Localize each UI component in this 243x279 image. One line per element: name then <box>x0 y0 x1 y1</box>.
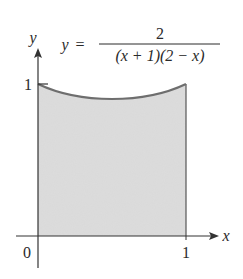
y-axis-label: y <box>27 29 37 47</box>
shaded-area <box>38 84 186 236</box>
equation-lhs: y <box>59 36 69 54</box>
x-tick-label-1: 1 <box>182 244 190 261</box>
equation-numerator: 2 <box>156 25 164 42</box>
area-under-curve-figure: y x 1 0 1 y = 2 (x + 1)(2 − x) <box>0 0 243 279</box>
equation-denominator: (x + 1)(2 − x) <box>115 47 204 65</box>
x-tick-label-0: 0 <box>23 244 31 261</box>
y-tick-label-1: 1 <box>24 76 32 93</box>
equation: y = 2 (x + 1)(2 − x) <box>59 25 220 65</box>
x-axis-label: x <box>221 227 229 244</box>
equation-equals: = <box>75 36 84 53</box>
